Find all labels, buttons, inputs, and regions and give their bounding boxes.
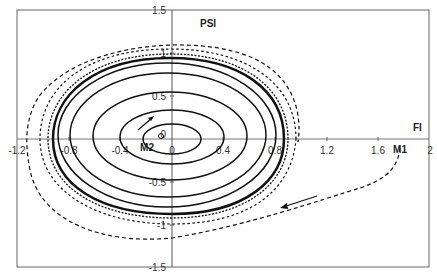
limit-cycle [53,58,284,214]
x-tick-label: -1.2 [8,145,26,156]
y-tick-label: 1.5 [152,5,166,16]
flow-arrow-icon [280,196,317,209]
x-tick-label: 1.2 [320,145,334,156]
y-axis-title: PSI [200,18,216,29]
m1-label: M1 [393,144,407,155]
solid-orbits [58,63,276,207]
phase-portrait-chart: -1.2 -0.8 -0.4 0 0.4 0.8 1.2 1.6 2 1.5 1… [0,0,437,277]
y-tick-label: -1 [157,220,166,231]
x-tick-label: 1.6 [371,145,385,156]
x-axis-title: FI [413,122,422,133]
y-tick-label: -1.5 [149,262,167,273]
m2-label: M2 [140,142,154,153]
x-tick-label: 2 [427,145,433,156]
